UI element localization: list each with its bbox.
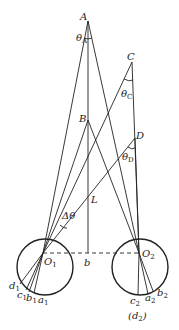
figure-caption: (d2) [128, 310, 147, 323]
label-O1: O1 [44, 256, 57, 269]
label-A: A [79, 11, 87, 22]
label-C: C [127, 51, 135, 62]
label-a1: a1 [38, 294, 48, 307]
left-eye-ray-c1 [26, 253, 43, 290]
right-eye-ray-c2 [138, 253, 139, 295]
label-L: L [90, 194, 98, 205]
arc-thetaD [128, 147, 135, 149]
label-O2: O2 [142, 248, 155, 261]
label-B: B [78, 113, 86, 124]
label-thetaD: θD [122, 151, 134, 164]
arc-delta [60, 225, 67, 228]
label-b: b [84, 257, 90, 268]
label-D: D [135, 130, 144, 141]
ray-B-left [43, 120, 88, 253]
binocular-vision-diagram: A θA C θC B D θD L Δθ O1 b O2 d1 c1 b1 a… [0, 0, 179, 330]
label-a2: a2 [145, 292, 155, 305]
label-c2: c2 [130, 295, 140, 308]
ray-C-left [43, 62, 132, 253]
label-delta-theta: Δθ [61, 210, 75, 221]
label-b2: b2 [157, 287, 168, 300]
label-thetaA: θA [76, 32, 88, 45]
label-thetaC: θC [121, 88, 132, 101]
arc-thetaC [124, 79, 133, 81]
